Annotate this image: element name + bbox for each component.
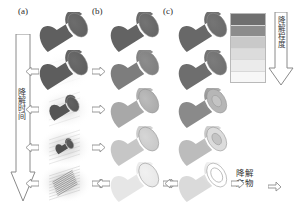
degradation-products-line1: 降解 <box>236 168 254 178</box>
cylinder-a-stage-2: bulk-degradation-with-fibrous-core <box>37 50 93 92</box>
stage-arrow-left-a-3 <box>26 105 38 114</box>
cylinder-b-stage-3: uniform-bulk-erosion-fading <box>108 88 164 130</box>
cylinder-c-stage-3: surface-erosion-to-hollow-tube <box>176 88 232 130</box>
cylinder-a-stage-3: bulk-degradation-with-fibrous-core <box>37 88 93 130</box>
stage-arrow-right-c-5 <box>231 179 243 188</box>
degradation-products-arrow-icon <box>268 178 282 188</box>
panel-label-b: (b) <box>92 6 103 16</box>
stage-arrow-left-c-5 <box>165 179 177 188</box>
stage-arrow-left-a-2 <box>26 67 38 76</box>
legend-band-6 <box>231 72 265 83</box>
stage-arrow-right-a-4 <box>92 143 104 152</box>
stage-arrow-right-a-3 <box>92 105 104 114</box>
cylinder-a-stage-5: bulk-degradation-with-fibrous-core <box>37 162 93 204</box>
panel-label-a: (a) <box>18 6 28 16</box>
degradation-degree-legend <box>230 13 266 83</box>
cylinder-b-stage-5: uniform-bulk-erosion-fading <box>108 162 164 204</box>
legend-band-2 <box>231 26 265 38</box>
legend-band-3 <box>231 37 265 49</box>
stage-arrow-left-a-5 <box>26 179 38 188</box>
cylinder-a-stage-1: bulk-degradation-with-fibrous-core <box>37 12 93 54</box>
cylinder-b-stage-2: uniform-bulk-erosion-fading <box>108 50 164 92</box>
legend-band-5 <box>231 60 265 72</box>
legend-band-1 <box>231 14 265 26</box>
panel-label-c: (c) <box>163 6 173 16</box>
cylinder-b-stage-1: uniform-bulk-erosion-fading <box>108 12 164 54</box>
cylinder-c-stage-2: surface-erosion-to-hollow-tube <box>176 50 232 92</box>
figure-canvas: (a) (b) (c) 降解时间 降解程度 降解 产物 bulk-degrada… <box>0 0 299 207</box>
stage-arrow-right-a-2 <box>92 67 104 76</box>
cylinder-c-stage-1: surface-erosion-to-hollow-tube <box>176 12 232 54</box>
degradation-time-label: 降解时间 <box>12 88 24 120</box>
degradation-degree-label: 降解程度 <box>273 16 284 48</box>
cylinder-c-stage-5: surface-erosion-to-hollow-tube <box>176 162 232 204</box>
legend-band-4 <box>231 49 265 61</box>
stage-arrow-left-a-4 <box>26 143 38 152</box>
stage-arrow-left-b-5 <box>97 179 109 188</box>
